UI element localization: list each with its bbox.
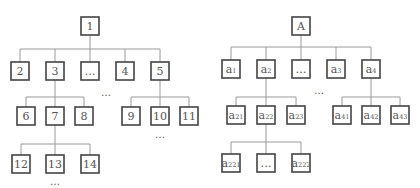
node-a3: a3 [327,60,345,78]
svg-text:10: 10 [153,110,167,123]
node-13: 13 [46,155,64,173]
node-a222: a222 [292,154,311,172]
node-a23: a23 [287,106,305,124]
svg-text:3: 3 [52,65,59,78]
ellipsis-between-subtrees-right: … [314,85,324,96]
node-6: 6 [17,107,35,125]
svg-text:9: 9 [128,110,135,123]
svg-text:13: 13 [48,158,62,171]
node-a42: a42 [362,106,380,124]
svg-text:…: … [296,63,307,76]
svg-text:6: 6 [23,110,30,123]
node-11: 11 [180,107,198,125]
ellipsis-under-node-10: … [155,129,165,140]
node-7: 7 [46,107,64,125]
svg-text:12: 12 [14,158,28,171]
node-9: 9 [122,107,140,125]
svg-text:14: 14 [83,158,97,171]
node-2: 2 [11,62,29,80]
node-a221: a221 [222,154,241,172]
svg-text:1: 1 [87,20,94,33]
node-ellipsis-right-level3: … [257,154,275,172]
node-a1: a1 [222,60,240,78]
node-a2: a2 [257,60,275,78]
svg-text:11: 11 [182,110,196,123]
node-a4: a4 [362,60,380,78]
node-a41: a41 [333,106,351,124]
node-14: 14 [81,155,99,173]
svg-text:7: 7 [52,110,59,123]
node-1: 1 [81,17,99,35]
node-10: 10 [151,107,169,125]
node-4: 4 [116,62,134,80]
svg-text:2: 2 [17,65,24,78]
svg-text:4: 4 [122,65,129,78]
node-8: 8 [75,107,93,125]
tree-diagram-canvas: 1 2 3 … 4 5 6 7 8 9 10 11 [0,0,420,188]
node-a22: a22 [257,106,275,124]
node-A: A [292,17,310,35]
ellipsis-between-subtrees-left: … [101,87,111,98]
svg-text:…: … [261,157,272,170]
node-3: 3 [46,62,64,80]
ellipsis-under-node-13: … [50,176,60,187]
node-a43: a43 [391,106,409,124]
node-12: 12 [12,155,30,173]
svg-text:…: … [85,65,96,78]
node-ellipsis-level1: … [81,62,99,80]
node-a21: a21 [227,106,245,124]
svg-text:A: A [296,20,306,33]
node-ellipsis-right-level1: … [292,60,310,78]
svg-text:5: 5 [157,65,164,78]
node-5: 5 [151,62,169,80]
svg-text:8: 8 [81,110,88,123]
